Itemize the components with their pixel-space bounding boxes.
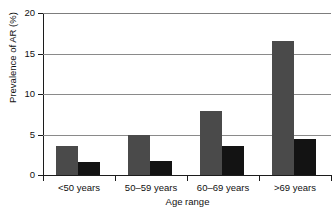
y-axis-tick: [38, 135, 43, 136]
x-axis-tick-label: >69 years: [259, 182, 331, 193]
y-axis-tick-label: 10: [5, 89, 35, 99]
bar-chart: Prevalence of AR (%) 05101520 <50 years5…: [0, 0, 336, 210]
y-axis-tick: [38, 13, 43, 14]
y-axis-tick: [38, 94, 43, 95]
y-axis-tick: [38, 54, 43, 55]
bar: [222, 146, 244, 175]
y-axis-tick-label: 0: [5, 170, 35, 180]
bar: [128, 135, 150, 176]
x-axis-tick: [331, 176, 332, 181]
y-axis-tick-label: 15: [5, 49, 35, 59]
bar: [150, 161, 172, 175]
x-axis-title: Age range: [43, 196, 332, 207]
y-axis-tick-label: 5: [5, 130, 35, 140]
bar: [56, 146, 78, 175]
x-axis-tick: [259, 176, 260, 181]
y-axis-title: Prevalence of AR (%): [7, 0, 18, 128]
x-axis-tick-label: 50–59 years: [115, 182, 187, 193]
bar: [78, 162, 100, 175]
bar: [200, 111, 222, 175]
x-axis-tick-label: <50 years: [43, 182, 115, 193]
bar: [272, 41, 294, 175]
y-axis-tick-label: 20: [5, 8, 35, 18]
x-axis-tick: [115, 176, 116, 181]
x-axis-tick: [187, 176, 188, 181]
plot-area: [43, 13, 331, 175]
x-axis-tick-label: 60–69 years: [187, 182, 259, 193]
bar: [294, 139, 316, 175]
gridline: [43, 13, 331, 14]
x-axis-tick: [43, 176, 44, 181]
